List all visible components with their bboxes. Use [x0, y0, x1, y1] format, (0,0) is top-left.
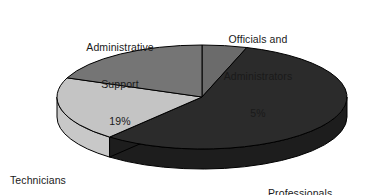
slice-label-value: 5%: [196, 107, 320, 119]
slice-label-professionals: Professionals 56%: [268, 162, 364, 195]
slice-label-line1: Technicians: [10, 174, 102, 186]
slice-label-line1: Professionals: [268, 187, 364, 195]
slice-label-administrative-support: Administrative Support 19%: [62, 16, 178, 152]
slice-label-value: 19%: [62, 115, 178, 127]
slice-label-line2: Support: [62, 78, 178, 90]
slice-label-technicians: Technicians 20%: [10, 149, 102, 195]
slice-label-line2: Administrators: [196, 70, 320, 82]
slice-label-line1: Administrative: [62, 41, 178, 53]
slice-label-officials-and-administrators: Officials and Administrators 5%: [196, 8, 320, 144]
pie-chart-figure: Officials and Administrators 5% Administ…: [0, 0, 368, 195]
slice-label-line1: Officials and: [196, 33, 320, 45]
